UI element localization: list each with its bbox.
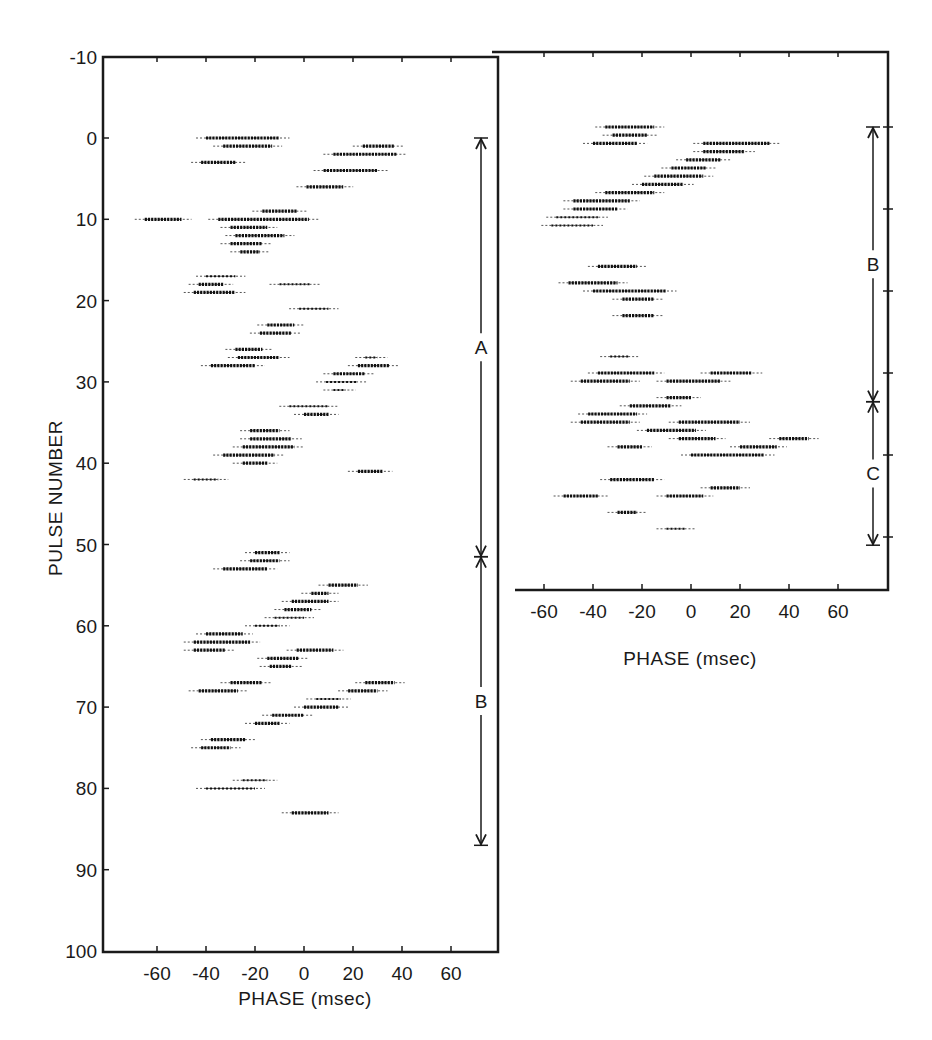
x-tick-label: 20 xyxy=(729,601,750,622)
x-tick-label: 60 xyxy=(827,601,848,622)
y-tick-label: 10 xyxy=(76,209,97,230)
x-tick-label: -40 xyxy=(192,963,219,984)
x-tick-label: 20 xyxy=(342,963,363,984)
y-tick-label: 60 xyxy=(76,616,97,637)
y-tick-label: -10 xyxy=(70,47,97,68)
left-drift-bands xyxy=(135,138,407,813)
y-tick-label: 0 xyxy=(86,128,97,149)
segment-label: B xyxy=(475,691,488,712)
y-tick-label: 50 xyxy=(76,535,97,556)
x-tick-label: -20 xyxy=(628,601,655,622)
left-y-axis-title: PULSE NUMBER xyxy=(45,420,66,576)
right-x-axis-title: PHASE (msec) xyxy=(623,648,757,669)
x-tick-label: -60 xyxy=(143,963,170,984)
x-tick-label: 60 xyxy=(440,963,461,984)
y-tick-label: 100 xyxy=(65,941,97,962)
right-segment-markers: BC xyxy=(866,127,880,545)
right-drift-bands xyxy=(541,127,818,529)
y-tick-label: 90 xyxy=(76,860,97,881)
right-plot-frame xyxy=(492,52,888,590)
y-tick-label: 80 xyxy=(76,778,97,799)
x-tick-label: -20 xyxy=(241,963,268,984)
x-tick-label: 0 xyxy=(299,963,310,984)
x-tick-label: 40 xyxy=(778,601,799,622)
y-tick-label: 40 xyxy=(76,453,97,474)
y-tick-label: 30 xyxy=(76,372,97,393)
segment-label: C xyxy=(866,463,880,484)
left-segment-markers: AB xyxy=(474,138,488,845)
x-tick-label: -40 xyxy=(579,601,606,622)
segment-label: B xyxy=(867,254,880,275)
left-plot-frame xyxy=(103,57,498,952)
x-tick-label: 0 xyxy=(686,601,697,622)
y-tick-label: 70 xyxy=(76,697,97,718)
x-tick-label: -60 xyxy=(530,601,557,622)
x-tick-label: 40 xyxy=(391,963,412,984)
left-x-axis-title: PHASE (msec) xyxy=(238,988,372,1009)
right-panel: -60-40-200204060 BC PHASE (msec) xyxy=(492,52,893,669)
y-tick-label: 20 xyxy=(76,291,97,312)
segment-label: A xyxy=(475,337,488,358)
left-panel: -100102030405060708090100 -60-40-2002040… xyxy=(45,47,498,1009)
pulse-stack-figure: -100102030405060708090100 -60-40-2002040… xyxy=(0,0,932,1040)
